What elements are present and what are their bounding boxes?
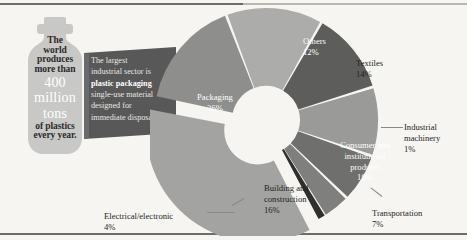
slice-label-industrial-machinery-name2: machinery (404, 133, 464, 144)
slice-label-electrical-name: Electrical/electronic (104, 211, 222, 222)
slice-label-transportation-pct: 7% (372, 219, 464, 230)
slice-label-industrial-machinery-pct: 1% (404, 144, 464, 155)
slice-label-consumer-name: Consumer and (328, 140, 402, 151)
slice-label-building-pct: 16% (264, 205, 334, 216)
slice-label-others-pct: 12% (303, 47, 349, 58)
slice-label-consumer-name2: institutional (328, 151, 402, 162)
slice-label-industrial-machinery: Industrial machinery 1% (404, 122, 464, 154)
slice-label-others-name: Others (303, 36, 349, 47)
slice-label-packaging: Packaging 36% (183, 92, 247, 114)
slice-label-textiles: Textiles 14% (356, 58, 402, 80)
slice-label-electrical-electronic: Electrical/electronic 4% (104, 211, 222, 233)
slice-label-consumer-institutional: Consumer and institutional products 10% (328, 140, 402, 183)
slice-label-consumer-name3: products (328, 162, 402, 173)
slice-label-electrical-pct: 4% (104, 222, 222, 233)
slice-label-transportation: Transportation 7% (372, 208, 464, 230)
slice-label-textiles-name: Textiles (356, 58, 402, 69)
slice-label-packaging-name: Packaging (183, 92, 247, 103)
slice-label-consumer-pct: 10% (328, 172, 402, 183)
slice-label-building-name2: construction (264, 194, 334, 205)
slice-label-industrial-machinery-name: Industrial (404, 122, 464, 133)
plastics-production-infographic: The world produces more than 400 million… (0, 0, 467, 240)
slice-label-building-construction: Building and construction 16% (264, 183, 334, 215)
slice-label-packaging-pct: 36% (183, 103, 247, 114)
slice-label-textiles-pct: 14% (356, 69, 402, 80)
leader-line-industrial-machinery (381, 127, 403, 128)
slice-label-transportation-name: Transportation (372, 208, 464, 219)
slice-label-building-name: Building and (264, 183, 334, 194)
slice-label-others: Others 12% (303, 36, 349, 58)
